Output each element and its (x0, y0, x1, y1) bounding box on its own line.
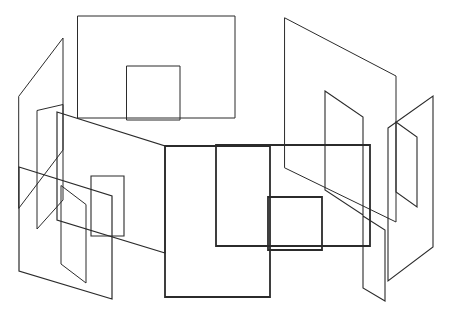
right-big-parallelogram (285, 18, 396, 222)
shape-layer (19, 16, 433, 301)
left-big-parallelogram (57, 112, 165, 253)
right-lower-parallelogram (363, 216, 385, 301)
middle-rectangle (216, 145, 370, 246)
drawing-canvas (0, 0, 450, 310)
mid-left-small-parallelogram (91, 176, 124, 236)
right-tall-parallelogram (388, 96, 433, 281)
right-inner-parallelogram (396, 122, 417, 207)
left-small-parallelogram (61, 186, 86, 283)
upper-large-rectangle (78, 16, 235, 118)
bottom-left-big-rectangle (165, 146, 270, 297)
middle-inner-rectangle (268, 197, 322, 250)
upper-inner-rectangle (127, 66, 180, 120)
abstract-line-figure (0, 0, 450, 310)
